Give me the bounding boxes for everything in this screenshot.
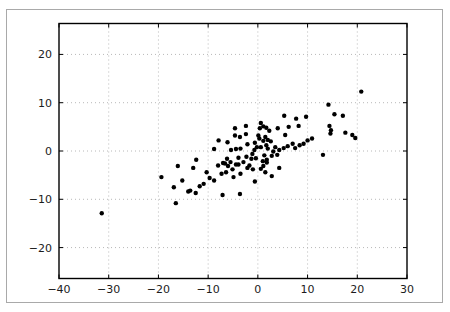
data-point bbox=[293, 146, 297, 150]
data-point bbox=[245, 142, 249, 146]
x-tick-label: −30 bbox=[97, 283, 120, 296]
data-point bbox=[204, 170, 208, 174]
data-point bbox=[265, 160, 269, 164]
data-point bbox=[172, 185, 176, 189]
data-point bbox=[197, 184, 201, 188]
data-point bbox=[286, 125, 290, 129]
data-point bbox=[251, 167, 255, 171]
data-point bbox=[261, 139, 265, 143]
figure: −40−30−20−100102030−20−1001020 bbox=[0, 0, 450, 312]
data-point bbox=[277, 148, 281, 152]
data-point bbox=[100, 211, 104, 215]
data-point bbox=[270, 154, 274, 158]
data-point bbox=[238, 171, 242, 175]
data-point bbox=[332, 112, 336, 116]
data-point bbox=[241, 160, 245, 164]
data-point bbox=[353, 136, 357, 140]
data-point bbox=[188, 188, 192, 192]
data-point bbox=[282, 114, 286, 118]
data-point bbox=[297, 143, 301, 147]
data-point bbox=[224, 170, 228, 174]
data-point bbox=[234, 147, 238, 151]
data-point bbox=[264, 143, 268, 147]
data-point bbox=[191, 166, 195, 170]
data-point bbox=[225, 140, 229, 144]
x-tick-label: −20 bbox=[147, 283, 170, 296]
data-point bbox=[194, 157, 198, 161]
data-point bbox=[254, 156, 258, 160]
data-point bbox=[174, 201, 178, 205]
data-point bbox=[244, 155, 248, 159]
x-tick-label: 0 bbox=[254, 283, 261, 296]
data-point bbox=[236, 162, 240, 166]
x-tick-label: −10 bbox=[197, 283, 220, 296]
data-point bbox=[216, 138, 220, 142]
data-point bbox=[269, 139, 273, 143]
data-point bbox=[233, 133, 237, 137]
data-point bbox=[276, 126, 280, 130]
data-point bbox=[233, 126, 237, 130]
data-point bbox=[296, 124, 300, 128]
y-tick-label: 20 bbox=[38, 48, 52, 61]
data-point bbox=[238, 135, 242, 139]
data-point bbox=[244, 132, 248, 136]
data-point bbox=[180, 178, 184, 182]
data-point bbox=[201, 182, 205, 186]
data-point bbox=[229, 148, 233, 152]
data-point bbox=[328, 131, 332, 135]
data-point bbox=[220, 193, 224, 197]
data-point bbox=[259, 145, 263, 149]
data-point bbox=[285, 144, 289, 148]
data-point bbox=[283, 133, 287, 137]
data-point bbox=[261, 164, 265, 168]
data-point bbox=[359, 89, 363, 93]
data-point bbox=[261, 159, 265, 163]
data-point bbox=[275, 153, 279, 157]
data-point bbox=[244, 124, 248, 128]
data-point bbox=[159, 175, 163, 179]
data-point bbox=[270, 174, 274, 178]
data-point bbox=[305, 138, 309, 142]
data-point bbox=[219, 171, 223, 175]
data-point bbox=[216, 163, 220, 167]
data-point bbox=[226, 164, 230, 168]
data-point bbox=[326, 102, 330, 106]
data-point bbox=[212, 178, 216, 182]
data-point bbox=[277, 166, 281, 170]
data-point bbox=[212, 147, 216, 151]
data-point bbox=[256, 133, 260, 137]
data-point bbox=[341, 114, 345, 118]
y-tick-label: −10 bbox=[29, 193, 52, 206]
y-tick-label: −20 bbox=[29, 242, 52, 255]
data-point bbox=[282, 146, 286, 150]
data-point bbox=[327, 124, 331, 128]
data-point bbox=[238, 192, 242, 196]
data-point bbox=[343, 130, 347, 134]
x-tick-label: 10 bbox=[301, 283, 315, 296]
data-point bbox=[273, 145, 277, 149]
data-point bbox=[253, 179, 257, 183]
data-point bbox=[304, 115, 308, 119]
data-point bbox=[231, 175, 235, 179]
data-point bbox=[207, 176, 211, 180]
data-point bbox=[294, 116, 298, 120]
data-point bbox=[238, 146, 242, 150]
data-point bbox=[236, 156, 240, 160]
x-tick-label: −40 bbox=[47, 283, 70, 296]
y-tick-label: 0 bbox=[45, 145, 52, 158]
data-point bbox=[176, 164, 180, 168]
data-point bbox=[252, 148, 256, 152]
data-point bbox=[301, 142, 305, 146]
data-point bbox=[221, 161, 225, 165]
data-point bbox=[249, 157, 253, 161]
x-tick-label: 30 bbox=[400, 283, 414, 296]
data-point bbox=[262, 153, 266, 157]
data-point bbox=[290, 142, 294, 146]
data-point bbox=[228, 160, 232, 164]
data-point bbox=[321, 153, 325, 157]
x-tick-label: 20 bbox=[350, 283, 364, 296]
data-point bbox=[250, 152, 254, 156]
data-point bbox=[264, 126, 268, 130]
scatter-plot: −40−30−20−100102030−20−1001020 bbox=[0, 0, 450, 312]
data-point bbox=[263, 170, 267, 174]
